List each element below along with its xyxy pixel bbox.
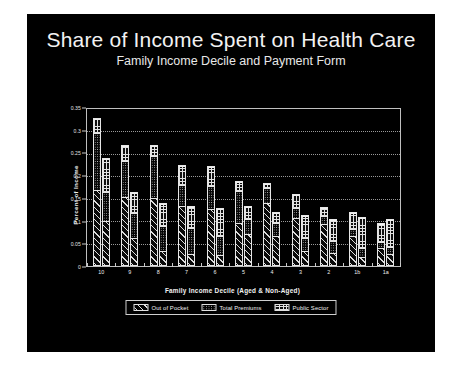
bar-group [87, 109, 115, 266]
stacked-bar[interactable] [377, 223, 385, 266]
legend-item[interactable]: Total Premiums [201, 304, 261, 311]
bar-segment [122, 161, 128, 196]
stacked-bar[interactable] [386, 219, 394, 266]
bar-group [343, 109, 371, 266]
stacked-bar[interactable] [216, 208, 224, 266]
bar-segment [103, 159, 109, 192]
chart-plot-area: Percent of Income 00.050.10.150.20.250.3… [60, 96, 405, 293]
x-axis-tick-mark [372, 263, 373, 267]
bar-group [315, 109, 343, 266]
bar-segment [208, 167, 214, 186]
stacked-bar[interactable] [358, 217, 366, 266]
stacked-bar[interactable] [130, 192, 138, 266]
bar-segment [188, 207, 194, 228]
stacked-bar[interactable] [187, 206, 195, 266]
bar-segment [321, 208, 327, 217]
bar-segment [131, 213, 137, 237]
bar-segment [208, 186, 214, 209]
legend-item[interactable]: Public Sector [274, 304, 328, 311]
legend-item[interactable]: Out of Pocket [133, 304, 188, 311]
bar-segment [302, 238, 308, 251]
bar-segment [273, 213, 279, 223]
bar-segment [264, 203, 270, 265]
y-axis-tick-label: 0.15 [71, 196, 81, 202]
stacked-bar[interactable] [292, 194, 300, 266]
bar-segment [350, 213, 356, 229]
bar-segment [359, 218, 365, 248]
stacked-bar[interactable] [93, 118, 101, 266]
stacked-bar[interactable] [244, 206, 252, 266]
x-axis-tick-mark [172, 263, 173, 267]
x-axis-tick-label: 2 [327, 269, 330, 275]
bar-segment [131, 238, 137, 265]
stacked-bar[interactable] [272, 212, 280, 266]
bar-segment [94, 119, 100, 133]
stacked-bar[interactable] [301, 215, 309, 266]
bar-group [229, 109, 257, 266]
title-block: Share of Income Spent on Health Care Fam… [27, 28, 435, 69]
bar-group [115, 109, 143, 266]
bar-segment [160, 251, 166, 265]
page-subtitle: Family Income Decile and Payment Form [27, 54, 435, 69]
bar-segment [359, 248, 365, 257]
bar-group [286, 109, 314, 266]
stacked-bar[interactable] [121, 145, 129, 266]
bar-segment [151, 146, 157, 156]
bar-segment [151, 198, 157, 265]
bar-segment [330, 253, 336, 265]
bar-segment [273, 236, 279, 265]
bar-segment [122, 146, 128, 161]
bar-segment [293, 208, 299, 218]
stacked-bar[interactable] [320, 207, 328, 266]
bar-segment [103, 192, 109, 221]
bar-group [201, 109, 229, 266]
bar-group [372, 109, 400, 266]
bar-segment [302, 251, 308, 265]
bar-segment [236, 182, 242, 191]
x-axis-ticks: 10987654321b1a [87, 266, 400, 280]
bar-segment [378, 248, 384, 265]
bar-segment [217, 255, 223, 265]
bar-group [144, 109, 172, 266]
bar-segment [179, 166, 185, 184]
bar-segment [321, 216, 327, 223]
x-axis-tick-mark [400, 263, 401, 267]
stacked-bar[interactable] [349, 212, 357, 266]
y-axis-tick-label: 0.35 [71, 105, 81, 111]
stacked-bar[interactable] [235, 181, 243, 266]
bar-segment [387, 247, 393, 255]
bar-segment [264, 188, 270, 203]
bar-group [172, 109, 200, 266]
legend-swatch-brick-icon [274, 304, 289, 311]
bar-segment [236, 223, 242, 265]
stacked-bar[interactable] [263, 183, 271, 266]
x-axis-tick-label: 1a [383, 269, 389, 275]
x-axis-tick-mark [286, 263, 287, 267]
bar-segment [302, 216, 308, 238]
stacked-bar[interactable] [102, 158, 110, 266]
stacked-bar[interactable] [159, 203, 167, 266]
bar-segment [387, 220, 393, 247]
bar-segment [359, 257, 365, 265]
x-axis-tick-mark [87, 263, 88, 267]
x-axis-tick-mark [201, 263, 202, 267]
x-axis-tick-label: 3 [299, 269, 302, 275]
y-axis-tick-label: 0.25 [71, 150, 81, 156]
stacked-bar[interactable] [329, 219, 337, 266]
bar-segment [245, 219, 251, 234]
bar-segment [387, 254, 393, 265]
legend-swatch-diagonal-hatch-icon [133, 304, 148, 311]
stacked-bar[interactable] [207, 166, 215, 266]
stacked-bar[interactable] [150, 145, 158, 266]
bar-segment [151, 156, 157, 198]
bar-group [258, 109, 286, 266]
bar-segment [330, 241, 336, 253]
bar-segment [273, 223, 279, 236]
bar-segment [179, 185, 185, 206]
bar-segment [245, 234, 251, 265]
bar-segment [188, 228, 194, 254]
chart-bars-layer [87, 109, 400, 266]
slide-canvas: Share of Income Spent on Health Care Fam… [27, 14, 435, 352]
stacked-bar[interactable] [178, 165, 186, 266]
x-axis-tick-label: 7 [185, 269, 188, 275]
